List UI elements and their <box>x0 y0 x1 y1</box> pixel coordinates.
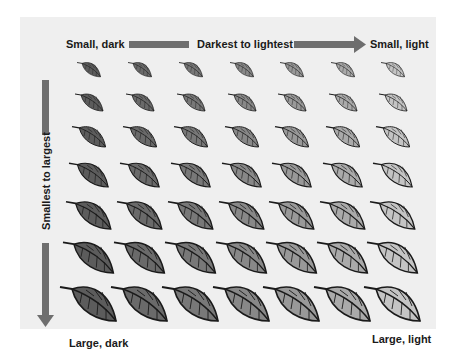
leaf-icon <box>216 237 270 278</box>
leaf-icon <box>370 197 418 234</box>
leaf-icon <box>69 159 111 191</box>
leaf-icon <box>373 159 415 191</box>
leaf-icon <box>165 237 219 278</box>
leaf-icon <box>72 123 108 151</box>
leaf-icon <box>331 60 356 79</box>
leaf-icon <box>269 197 317 234</box>
leaf-icon <box>179 60 204 79</box>
vertical-arrow-down-icon <box>37 243 55 327</box>
horizontal-arrow-bar-left <box>129 41 189 48</box>
label-small-light: Small, light <box>370 38 429 50</box>
leaf-icon <box>275 123 311 151</box>
leaf-icon <box>323 159 365 191</box>
leaf-icon <box>320 197 368 234</box>
leaf-icon <box>174 123 210 151</box>
leaf-icon <box>230 60 255 79</box>
leaf-icon <box>75 91 105 114</box>
leaf-icon <box>123 123 159 151</box>
leaf-icon <box>114 237 168 278</box>
label-large-dark: Large, dark <box>69 337 128 349</box>
leaf-icon <box>379 91 409 114</box>
leaf-icon <box>177 91 207 114</box>
label-smallest-to-largest: Smallest to largest <box>40 129 52 233</box>
leaf-icon <box>278 91 308 114</box>
leaf-icon <box>266 237 320 278</box>
leaf-icon <box>126 91 156 114</box>
leaf-icon <box>66 197 114 234</box>
label-small-dark: Small, dark <box>66 38 125 50</box>
leaf-icon <box>381 60 406 79</box>
leaf-icon <box>117 197 165 234</box>
leaf-icon <box>228 91 258 114</box>
leaf-icon <box>168 197 216 234</box>
leaf-icon <box>329 91 359 114</box>
leaf-icon <box>219 197 267 234</box>
leaf-icon <box>222 159 264 191</box>
leaf-icon <box>280 60 305 79</box>
leaf-icon <box>225 123 261 151</box>
label-large-light: Large, light <box>372 333 431 345</box>
leaf-icon <box>364 281 424 327</box>
leaf-icon <box>63 237 117 278</box>
leaf-icon <box>77 60 102 79</box>
horizontal-arrow-right-icon <box>294 36 366 54</box>
vertical-arrow-bar-top <box>42 80 49 135</box>
leaf-icon <box>120 159 162 191</box>
leaf-icon <box>367 237 421 278</box>
label-darkest-to-lightest: Darkest to lightest <box>197 38 293 50</box>
leaf-icon <box>317 237 371 278</box>
leaf-icon <box>171 159 213 191</box>
leaf-icon <box>326 123 362 151</box>
leaf-icon <box>272 159 314 191</box>
leaf-icon <box>376 123 412 151</box>
leaf-icon <box>128 60 153 79</box>
